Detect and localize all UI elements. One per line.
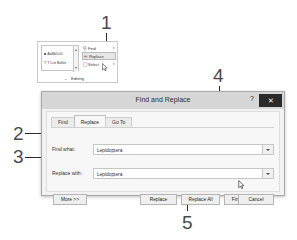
find-and-replace-dialog: Find and Replace ? ✕ Find Replace Go To (41, 91, 285, 196)
ribbon-command-label: Find (88, 46, 113, 51)
close-icon[interactable]: ✕ (259, 94, 282, 107)
tab-replace[interactable]: Replace (74, 115, 106, 127)
cancel-button[interactable]: Cancel (238, 194, 274, 205)
ribbon-command-select[interactable]: ▢ Select ▾ (82, 60, 116, 68)
scroll-down-icon[interactable] (75, 67, 77, 69)
tab-find[interactable]: Find (51, 117, 75, 128)
dialog-titlebar[interactable]: Find and Replace ? ✕ (42, 92, 284, 110)
more-button[interactable]: More >> (53, 194, 87, 205)
replace-with-dropdown-button[interactable] (262, 169, 273, 178)
styles-gallery[interactable]: AaBbCcD TT List Bullet (41, 45, 79, 71)
replace-with-label: Replace with: (52, 170, 82, 176)
callout-number-1: 1 (101, 13, 112, 32)
callout-number-4: 4 (213, 66, 224, 85)
mouse-cursor-dialog (238, 180, 245, 190)
figure-canvas: 1 2 3 4 5 AaBbCcD TT List Bullet ⚲ (0, 0, 297, 240)
replace-with-combobox[interactable]: Lepidoptera (93, 168, 274, 179)
ribbon-group-label: Editing (38, 76, 117, 81)
ribbon-command-find[interactable]: ⚲ Find ▾ (82, 44, 116, 52)
dialog-body: Find Replace Go To Find what: Lepidopter… (42, 109, 284, 195)
style-item-aabbccd[interactable]: AaBbCcD (44, 53, 63, 57)
style-item-label: T List Bullet (47, 61, 66, 65)
tab-label: Replace (81, 119, 99, 125)
find-what-label: Find what: (52, 146, 75, 152)
help-icon[interactable]: ? (248, 95, 256, 102)
ribbon-command-label: Replace (89, 54, 115, 59)
styles-gallery-scrollbar[interactable] (73, 46, 78, 72)
ribbon-command-replace[interactable]: ⎆ Replace (82, 52, 116, 60)
replace-with-input[interactable]: Lepidoptera (97, 172, 122, 177)
chevron-down-icon (266, 149, 270, 151)
ribbon-command-label: Select (88, 62, 113, 67)
replace-all-button[interactable]: Replace All (181, 194, 220, 205)
find-what-input[interactable]: Lepidoptera (97, 148, 122, 153)
replace-with-row: Replace with: Lepidoptera (52, 168, 274, 179)
tab-go-to[interactable]: Go To (105, 117, 132, 128)
tab-label: Go To (112, 119, 125, 125)
find-what-combobox[interactable]: Lepidoptera (93, 144, 274, 155)
tabstrip-divider (51, 127, 274, 128)
ribbon-editing-group: AaBbCcD TT List Bullet ⚲ Find ▾ ⎆ Replac… (37, 41, 118, 83)
scroll-up-icon[interactable] (75, 49, 77, 51)
mouse-cursor-ribbon (102, 63, 108, 72)
find-what-row: Find what: Lepidoptera (52, 144, 274, 155)
paragraph-mark-icon: T (44, 61, 46, 65)
dialog-tabstrip: Find Replace Go To (51, 115, 131, 127)
callout-number-2: 2 (13, 124, 24, 143)
chevron-down-icon (266, 173, 270, 175)
style-item-label: AaBbCcD (47, 52, 63, 56)
chevron-down-icon[interactable]: ▾ (113, 62, 116, 66)
tab-label: Find (58, 119, 68, 125)
replace-button[interactable]: Replace (140, 194, 177, 205)
callout-number-3: 3 (13, 147, 24, 166)
editing-commands-list: ⚲ Find ▾ ⎆ Replace ▢ Select ▾ (82, 44, 116, 68)
style-item-list-bullet[interactable]: TT List Bullet (44, 62, 66, 66)
find-what-dropdown-button[interactable] (262, 145, 273, 154)
bullet-icon (44, 53, 46, 55)
chevron-down-icon[interactable]: ▾ (113, 46, 116, 50)
callout-number-5: 5 (182, 213, 193, 232)
